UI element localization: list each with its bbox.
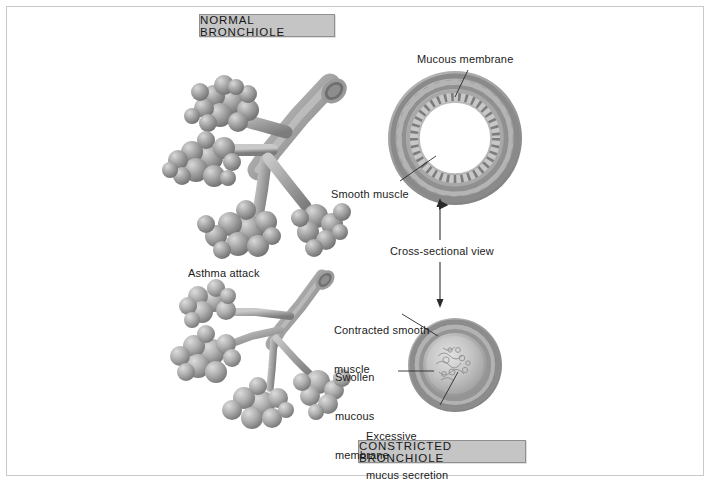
label-contracted-smooth-muscle-line1: Contracted smooth	[334, 324, 430, 337]
label-cross-sectional-view: Cross-sectional view	[390, 245, 494, 258]
label-excessive-line2: mucus secretion	[366, 469, 448, 482]
label-excessive-line1: Excessive	[366, 430, 448, 443]
label-smooth-muscle: Smooth muscle	[331, 188, 409, 201]
label-mucous-membrane: Mucous membrane	[417, 53, 513, 66]
normal-cross-section	[388, 71, 522, 205]
title-normal-bronchiole-text: NORMAL BRONCHIOLE	[200, 14, 334, 38]
label-swollen-line1: Swollen	[335, 371, 389, 384]
label-asthma-attack: Asthma attack	[188, 267, 260, 280]
label-excessive-mucus-secretion: Excessive mucus secretion	[366, 404, 448, 484]
normal-bronchiole-illustration	[162, 73, 352, 259]
title-normal-bronchiole: NORMAL BRONCHIOLE	[199, 14, 335, 37]
figure-canvas: NORMAL BRONCHIOLE CONSTRICTED BRONCHIOLE…	[0, 0, 712, 484]
asthma-attack-bronchiole-illustration	[170, 266, 351, 429]
